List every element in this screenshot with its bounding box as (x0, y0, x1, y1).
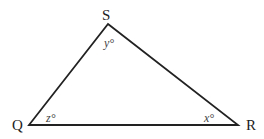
angle-label-s: y° (103, 36, 114, 50)
triangle-sqr (29, 24, 238, 125)
triangle-diagram: S Q R y° z° x° (0, 0, 264, 139)
angle-label-r: x° (203, 111, 214, 125)
angle-label-q: z° (45, 111, 56, 125)
vertex-label-r: R (246, 117, 256, 133)
vertex-label-s: S (102, 7, 110, 23)
vertex-label-q: Q (12, 117, 23, 133)
